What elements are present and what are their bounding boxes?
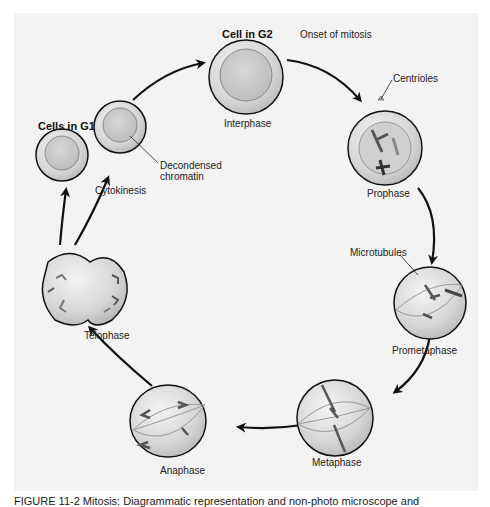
label-metaphase: Metaphase <box>312 457 361 468</box>
g2-cell <box>209 40 283 114</box>
label-cytokinesis: Cytokinesis <box>95 185 146 196</box>
telophase-cell <box>42 254 127 326</box>
label-telophase: Telophase <box>84 330 130 341</box>
prometaphase-cell <box>394 255 466 339</box>
label-onset-of-mitosis: Onset of mitosis <box>300 29 372 40</box>
label-cells-in-g1: Cells in G1 <box>38 120 95 132</box>
label-cell-in-g2: Cell in G2 <box>222 28 273 40</box>
metaphase-cell <box>297 380 373 456</box>
label-chromatin: chromatin <box>160 171 204 182</box>
label-prophase: Prophase <box>367 188 410 199</box>
label-interphase: Interphase <box>224 118 271 129</box>
label-anaphase: Anaphase <box>160 465 205 476</box>
g1-cell-left <box>36 129 88 181</box>
label-microtubules: Microtubules <box>350 247 407 258</box>
label-prometaphase: Prometaphase <box>392 345 457 356</box>
label-decondensed: Decondensed <box>160 160 222 171</box>
figure-caption: FIGURE 11-2 Mitosis: Diagrammatic repres… <box>14 495 419 507</box>
anaphase-cell <box>130 385 206 457</box>
prophase-cell <box>348 80 422 185</box>
g1-cell-right <box>94 101 158 163</box>
label-centrioles: Centrioles <box>393 73 438 84</box>
